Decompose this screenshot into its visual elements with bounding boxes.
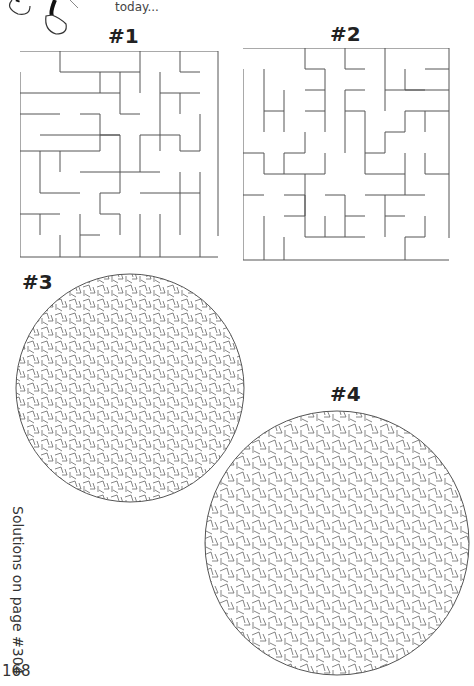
solutions-note: Solutions on page #304	[10, 506, 26, 675]
maze-1-label: #1	[108, 24, 139, 48]
intro-caption: today...	[115, 0, 159, 14]
maze-4	[203, 407, 473, 682]
page-number: 168	[2, 662, 31, 680]
maze-1	[20, 51, 220, 261]
maze-2	[243, 48, 453, 263]
maze-4-label: #4	[330, 382, 361, 406]
maze-2-label: #2	[330, 22, 361, 46]
cartoon-mascot-icon	[0, 0, 80, 45]
